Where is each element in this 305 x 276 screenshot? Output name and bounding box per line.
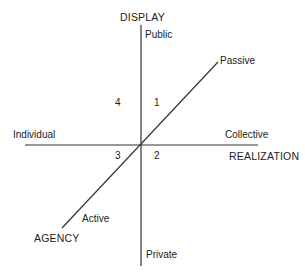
diagram-canvas: DISPLAY Public Private Individual Collec… (0, 0, 305, 276)
quadrant-4-label: 4 (115, 97, 121, 109)
passive-pole-label: Passive (220, 55, 255, 67)
realization-axis-title: REALIZATION (229, 150, 299, 162)
quadrant-1-label: 1 (154, 97, 160, 109)
display-axis-title: DISPLAY (120, 11, 165, 23)
active-pole-label: Active (82, 213, 109, 225)
quadrant-2-label: 2 (154, 150, 160, 162)
collective-pole-label: Collective (225, 129, 268, 141)
individual-pole-label: Individual (13, 129, 55, 141)
quadrant-3-label: 3 (115, 150, 121, 162)
agency-axis-title: AGENCY (34, 232, 80, 244)
public-pole-label: Public (145, 29, 172, 41)
private-pole-label: Private (146, 249, 177, 261)
